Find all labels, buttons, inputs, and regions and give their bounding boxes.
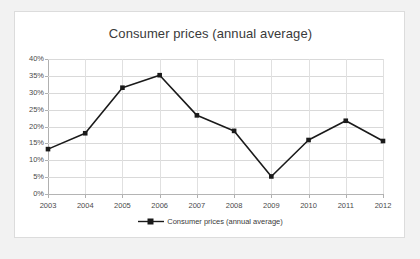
x-axis-tick-label: 2010: [300, 201, 317, 210]
y-axis-ticks: [15, 59, 48, 195]
x-axis-tick-mark: [234, 195, 235, 198]
x-axis-tick-label: 2007: [189, 201, 206, 210]
x-axis-tick-label: 2012: [375, 201, 392, 210]
x-axis-tick-mark: [271, 195, 272, 198]
x-axis-tick-mark: [48, 195, 49, 198]
x-axis-tick-label: 2003: [40, 201, 57, 210]
data-point-marker: [83, 131, 88, 136]
x-axis-tick-mark: [85, 195, 86, 198]
x-axis-tick-mark: [309, 195, 310, 198]
data-point-marker: [232, 129, 237, 134]
chart-title: Consumer prices (annual average): [15, 26, 406, 41]
data-point-marker: [120, 85, 125, 90]
legend-label: Consumer prices (annual average): [167, 217, 282, 226]
x-axis-tick-label: 2004: [77, 201, 94, 210]
data-point-marker: [46, 147, 51, 152]
x-axis-tick-mark: [346, 195, 347, 198]
data-point-marker: [269, 174, 274, 179]
data-point-marker: [381, 139, 386, 144]
legend-line-marker-icon: [138, 217, 164, 226]
x-axis-tick-mark: [383, 195, 384, 198]
x-axis-tick-label: 2011: [338, 201, 354, 210]
series-path: [48, 75, 383, 176]
x-axis-tick-label: 2005: [114, 201, 131, 210]
series-line-consumer-prices: [48, 59, 383, 194]
x-axis-tick-label: 2006: [151, 201, 168, 210]
x-axis-tick-label: 2008: [226, 201, 243, 210]
x-axis-labels: 2003200420052006200720082009201020112012: [48, 201, 383, 213]
x-axis-tick-mark: [122, 195, 123, 198]
plot-area: [48, 59, 383, 194]
data-point-marker: [306, 138, 311, 143]
chart-card: Consumer prices (annual average) 0%5%10%…: [14, 11, 405, 238]
vertical-gridline: [383, 59, 384, 194]
x-axis-tick-mark: [160, 195, 161, 198]
data-point-marker: [195, 113, 200, 118]
x-axis-tick-label: 2009: [263, 201, 280, 210]
data-point-marker: [157, 73, 162, 78]
data-point-marker: [343, 118, 348, 123]
x-axis-tick-mark: [197, 195, 198, 198]
chart-legend: Consumer prices (annual average): [15, 217, 406, 226]
x-axis-ticks: [48, 195, 383, 199]
